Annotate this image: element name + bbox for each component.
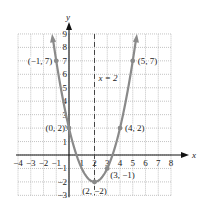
point-label: (5, 7) [138, 56, 158, 66]
curve-arrow-left-icon [50, 34, 56, 43]
symmetry-label: x = 2 [98, 73, 119, 83]
x-tick-label: −4 [13, 158, 23, 168]
data-point [105, 166, 110, 171]
y-tick-label: 7 [63, 56, 68, 66]
tick-labels: −4−3−2−112345678−3−2−1123456789 [13, 29, 174, 200]
y-tick-label: −3 [57, 190, 67, 200]
data-point [54, 58, 59, 63]
data-point [118, 126, 123, 131]
x-tick-label: −2 [39, 158, 49, 168]
y-tick-label: 1 [63, 137, 68, 147]
x-axis-arrow-icon [181, 152, 189, 158]
point-label: (4, 2) [125, 123, 145, 133]
data-point [130, 58, 135, 63]
y-axis-label: y [65, 12, 70, 22]
point-label: (0, 2) [46, 123, 66, 133]
x-axis-label: x [191, 150, 196, 160]
curve-arrow-right-icon [133, 34, 139, 43]
data-point [67, 126, 72, 131]
y-tick-label: −2 [57, 177, 67, 187]
x-tick-label: 6 [143, 158, 148, 168]
y-tick-label: 8 [63, 42, 68, 52]
x-tick-label: 5 [131, 158, 136, 168]
y-tick-label: 9 [63, 29, 68, 39]
x-tick-label: 7 [156, 158, 161, 168]
point-label: (−1, 7) [28, 56, 53, 66]
point-label: (3, −1) [110, 170, 135, 180]
x-tick-label: 8 [169, 158, 174, 168]
point-label: (2, −2) [82, 186, 107, 196]
y-tick-label: 6 [63, 69, 68, 79]
parabola-chart: xy −4−3−2−112345678−3−2−1123456789 x = 2… [0, 0, 203, 204]
labeled-points: (−1, 7)(0, 2)(2, −2)(3, −1)(4, 2)(5, 7) [28, 56, 158, 196]
y-tick-label: 5 [63, 83, 68, 93]
data-point [92, 180, 97, 185]
x-tick-label: −3 [26, 158, 36, 168]
x-tick-label: 4 [118, 158, 123, 168]
y-tick-label: −1 [57, 163, 67, 173]
